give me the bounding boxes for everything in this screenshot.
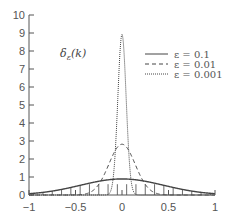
y-tick-label: 1 <box>19 171 25 183</box>
function-label: δε(k) <box>60 47 86 62</box>
y-tick-label: 4 <box>19 117 25 129</box>
x-tick-label: 1 <box>212 201 218 213</box>
curve-dashed <box>29 144 215 195</box>
x-tick-label: −1 <box>23 201 36 213</box>
y-tick-label: 2 <box>19 153 25 165</box>
x-tick-label: −0.5 <box>65 201 87 213</box>
axes: 012345678910−1−0.500.51 <box>13 9 218 213</box>
x-tick-label: 0.5 <box>161 201 176 213</box>
y-tick-label: 10 <box>13 9 25 21</box>
delta-function-chart: 012345678910−1−0.500.51 δε(k) ε = 0.1ε =… <box>0 0 225 222</box>
y-tick-label: 9 <box>19 27 25 39</box>
y-tick-label: 8 <box>19 45 25 57</box>
y-tick-label: 7 <box>19 63 25 75</box>
y-tick-label: 5 <box>19 99 25 111</box>
legend-label: ε = 0.001 <box>174 69 223 80</box>
y-tick-label: 0 <box>19 189 25 201</box>
x-tick-label: 0 <box>119 201 125 213</box>
y-tick-label: 3 <box>19 135 25 147</box>
y-tick-label: 6 <box>19 81 25 93</box>
legend: ε = 0.1ε = 0.01ε = 0.001 <box>145 49 223 80</box>
